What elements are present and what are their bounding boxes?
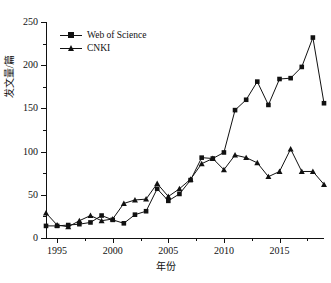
square-marker	[133, 212, 138, 217]
triangle-marker-icon	[60, 43, 82, 54]
triangle-marker	[43, 210, 49, 215]
square-marker	[255, 79, 260, 84]
legend-item-web-of-science: Web of Science	[60, 29, 146, 42]
triangle-marker	[288, 146, 294, 151]
square-marker	[144, 209, 149, 214]
chart-legend: Web of Science CNKI	[60, 29, 146, 55]
square-marker	[155, 186, 160, 191]
square-marker	[277, 77, 282, 82]
triangle-marker	[87, 213, 93, 218]
square-marker-icon	[60, 30, 82, 41]
square-marker	[266, 103, 271, 108]
legend-label-cnki: CNKI	[87, 42, 110, 55]
square-marker	[166, 199, 171, 204]
legend-label-web-of-science: Web of Science	[87, 29, 146, 42]
square-marker	[288, 76, 293, 81]
legend-item-cnki: CNKI	[60, 42, 146, 55]
square-marker	[322, 101, 327, 106]
triangle-marker	[232, 152, 238, 157]
square-marker	[44, 224, 49, 229]
triangle-marker	[254, 160, 260, 165]
publication-trend-chart: 05010015020025019952000200520102015 Web …	[0, 0, 331, 283]
square-marker	[122, 221, 127, 226]
series-line	[46, 38, 324, 226]
square-marker	[99, 213, 104, 218]
square-marker	[222, 150, 227, 155]
series-plot	[0, 0, 331, 283]
square-marker	[177, 192, 182, 197]
y-axis-title: 发文量/篇	[4, 55, 15, 98]
triangle-marker	[277, 168, 283, 173]
x-axis-title: 年份	[0, 261, 331, 272]
series-line	[46, 149, 324, 227]
square-marker	[244, 97, 249, 102]
triangle-marker	[76, 218, 82, 223]
square-marker	[311, 35, 316, 40]
square-marker	[233, 108, 238, 113]
series-web-of-science	[44, 35, 327, 228]
triangle-marker	[154, 181, 160, 186]
square-marker	[88, 220, 93, 225]
square-marker	[299, 65, 304, 70]
square-marker	[199, 155, 204, 160]
